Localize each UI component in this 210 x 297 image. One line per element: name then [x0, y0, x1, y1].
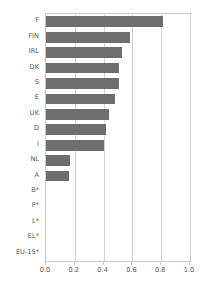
- x-axis-tick-label: 0.4: [97, 266, 108, 274]
- bar-row: [46, 232, 190, 243]
- bar-row: [46, 140, 190, 151]
- y-axis-category-labels: FFINIRLDKSEUKDINLAB*P*L*EL*EU-15*: [0, 13, 42, 262]
- y-axis-label: P*: [32, 202, 39, 209]
- bar: [46, 171, 69, 182]
- bar-row: [46, 109, 190, 120]
- bar: [46, 124, 106, 135]
- bar: [46, 16, 163, 27]
- bar-row: [46, 47, 190, 58]
- x-axis-tick-label: 0.6: [126, 266, 137, 274]
- bar: [46, 140, 104, 151]
- x-axis-tick-mark: [131, 262, 132, 265]
- y-axis-label: DK: [30, 64, 39, 71]
- bar-row: [46, 16, 190, 27]
- x-axis-tick-mark: [160, 262, 161, 265]
- bar-row: [46, 155, 190, 166]
- y-axis-label: EU-15*: [16, 249, 39, 256]
- bar-row: [46, 202, 190, 213]
- y-axis-label: I: [37, 141, 39, 148]
- y-axis-label: EL*: [28, 233, 39, 240]
- x-axis-tick-mark: [189, 262, 190, 265]
- y-axis-label: D: [34, 125, 39, 132]
- x-axis-tick-label: 0.8: [155, 266, 166, 274]
- bar-row: [46, 186, 190, 197]
- x-axis-tick-label: 0.0: [40, 266, 51, 274]
- bar: [46, 32, 130, 43]
- bar-row: [46, 124, 190, 135]
- bars-layer: [46, 14, 190, 261]
- bar: [46, 78, 119, 89]
- y-axis-label: NL: [30, 156, 39, 163]
- bar-row: [46, 171, 190, 182]
- x-axis-tick-label: 1.0: [184, 266, 195, 274]
- x-axis-tick-mark: [74, 262, 75, 265]
- x-axis-tick-mark: [45, 262, 46, 265]
- x-axis-tick-mark: [103, 262, 104, 265]
- bar: [46, 109, 109, 120]
- x-axis-tick-labels: 0.00.20.40.60.81.0: [45, 266, 191, 280]
- y-axis-label: F: [35, 17, 39, 24]
- y-axis-label: A: [34, 172, 39, 179]
- y-axis-label: L*: [32, 218, 39, 225]
- bar-row: [46, 78, 190, 89]
- x-axis-tick-label: 0.2: [69, 266, 80, 274]
- y-axis-label: E: [35, 94, 39, 101]
- y-axis-label: B*: [31, 187, 39, 194]
- bar: [46, 94, 115, 105]
- bar-chart: FFINIRLDKSEUKDINLAB*P*L*EL*EU-15* 0.00.2…: [0, 0, 210, 297]
- plot-area: [45, 13, 191, 262]
- y-axis-label: UK: [30, 110, 39, 117]
- y-axis-label: FIN: [28, 33, 39, 40]
- bar: [46, 47, 122, 58]
- y-axis-label: S: [35, 79, 39, 86]
- bar: [46, 63, 119, 74]
- gridline: [190, 14, 191, 261]
- bar-row: [46, 63, 190, 74]
- bar-row: [46, 217, 190, 228]
- bar-row: [46, 94, 190, 105]
- y-axis-label: IRL: [29, 48, 39, 55]
- bar-row: [46, 32, 190, 43]
- bar: [46, 155, 70, 166]
- bar-row: [46, 248, 190, 259]
